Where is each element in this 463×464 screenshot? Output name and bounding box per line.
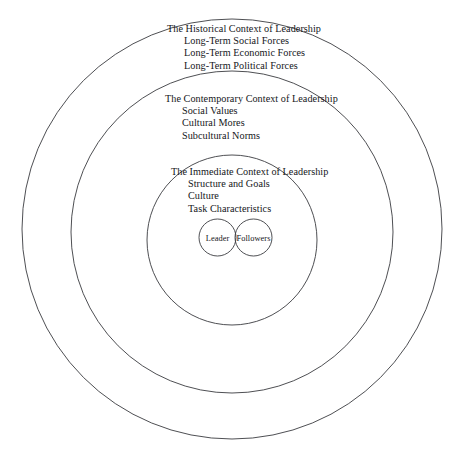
- historical-context-item: Long-Term Social Forces: [167, 35, 321, 47]
- immediate-context-heading: The Immediate Context of Leadership: [171, 166, 328, 178]
- historical-context-item: Long-Term Political Forces: [167, 60, 321, 72]
- contemporary-context-item: Subcultural Norms: [165, 130, 338, 142]
- immediate-context-text-block: The Immediate Context of Leadership Stru…: [171, 166, 328, 215]
- outer-ring-historical: [22, 19, 442, 439]
- immediate-context-item: Task Characteristics: [171, 203, 328, 215]
- immediate-context-item: Structure and Goals: [171, 178, 328, 190]
- contemporary-context-item: Cultural Mores: [165, 117, 338, 129]
- leader-label: Leader: [206, 234, 230, 243]
- followers-label: Followers: [237, 234, 271, 243]
- contemporary-context-text-block: The Contemporary Context of Leadership S…: [165, 93, 338, 142]
- immediate-context-item: Culture: [171, 190, 328, 202]
- historical-context-text-block: The Historical Context of Leadership Lon…: [167, 23, 321, 72]
- nested-contexts-diagram: The Historical Context of Leadership Lon…: [0, 0, 463, 464]
- historical-context-item: Long-Term Economic Forces: [167, 47, 321, 59]
- contemporary-context-heading: The Contemporary Context of Leadership: [165, 93, 338, 105]
- contemporary-context-item: Social Values: [165, 105, 338, 117]
- historical-context-heading: The Historical Context of Leadership: [167, 23, 321, 35]
